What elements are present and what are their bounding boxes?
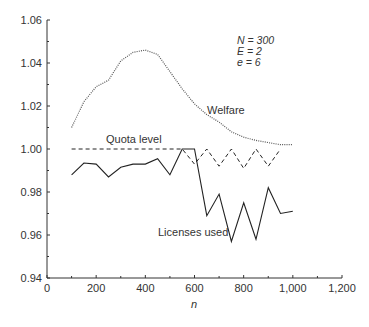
y-tick-label: 0.96 [21, 229, 42, 241]
licenses-used-label: Licenses used [158, 226, 228, 238]
axes: 0.940.960.981.001.021.041.06020040060080… [21, 14, 356, 294]
quota-level-line [72, 149, 281, 168]
y-tick-label: 1.02 [21, 100, 42, 112]
x-tick-label: 800 [234, 282, 252, 294]
x-axis-label: n [191, 298, 197, 310]
welfare-label: Welfare [207, 104, 245, 116]
quota-level-label: Quota level [106, 133, 162, 145]
x-tick-label: 0 [44, 282, 50, 294]
x-tick-label: 600 [185, 282, 203, 294]
series-labels: Welfare Quota level Licenses used n N = … [106, 34, 274, 310]
x-tick-label: 200 [87, 282, 105, 294]
line-chart: 0.940.960.981.001.021.041.06020040060080… [0, 0, 369, 327]
x-tick-label: 400 [136, 282, 154, 294]
x-tick-label: 1,200 [328, 282, 356, 294]
y-tick-label: 1.06 [21, 14, 42, 26]
y-tick-label: 0.94 [21, 272, 42, 284]
y-tick-label: 1.04 [21, 57, 42, 69]
annotation-e: e = 6 [237, 56, 261, 68]
y-tick-label: 1.00 [21, 143, 42, 155]
y-tick-label: 0.98 [21, 186, 42, 198]
x-tick-label: 1,000 [279, 282, 307, 294]
series-lines [72, 50, 293, 241]
chart-canvas: 0.940.960.981.001.021.041.06020040060080… [0, 0, 369, 327]
